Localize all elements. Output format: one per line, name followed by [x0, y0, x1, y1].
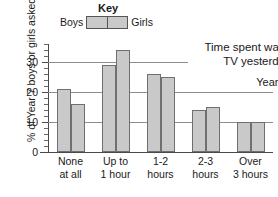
chart-title-line1: Time spent watching	[204, 41, 278, 53]
bar-girls-4	[251, 122, 265, 152]
x-axis-line	[40, 152, 273, 153]
bar-girls-0	[71, 104, 85, 152]
key-label-girls: Girls	[131, 16, 153, 29]
x-axis-label-line2: 3 hours	[224, 168, 277, 181]
y-tick-major-0	[42, 152, 48, 153]
key-swatch-group	[86, 16, 128, 29]
bar-chart: Key Boys Girls % of Year 7 boys or girls…	[0, 0, 278, 197]
bar-girls-1	[116, 50, 130, 152]
y-tick-label-0: 0	[18, 146, 38, 158]
x-axis-label-line1: Over	[239, 155, 262, 167]
x-axis-label-line1: None	[58, 155, 83, 167]
bar-girls-2	[161, 77, 175, 152]
bar-boys-4	[237, 122, 251, 152]
x-axis-label-4: Over3 hours	[224, 155, 277, 181]
bar-boys-0	[57, 89, 71, 152]
bar-boys-2	[147, 74, 161, 152]
key-label-boys: Boys	[60, 16, 83, 29]
chart-key: Key Boys Girls	[60, 2, 220, 34]
y-tick-label-30: 30	[18, 56, 38, 68]
x-axis-label-line1: 2-3	[198, 155, 213, 167]
x-axis-labels: Noneat allUp to1 hour1-2hours2-3hoursOve…	[48, 155, 273, 195]
y-axis-title: % of Year 7 boys or girls asked	[25, 0, 37, 155]
x-axis-label-line1: 1-2	[153, 155, 168, 167]
key-title: Key	[98, 2, 118, 14]
bar-boys-3	[192, 110, 206, 152]
plot-area: Time spent watching TV yesterday Year 7	[48, 44, 273, 152]
x-axis-label-line1: Up to	[103, 155, 128, 167]
key-row: Boys Girls	[60, 16, 153, 29]
bar-boys-1	[102, 65, 116, 152]
chart-title-line2: TV yesterday	[188, 54, 278, 68]
key-swatch-girls	[107, 17, 127, 28]
chart-title: Time spent watching TV yesterday	[188, 39, 278, 69]
y-tick-label-20: 20	[18, 86, 38, 98]
key-swatch-boys	[87, 17, 107, 28]
year-annotation: Year 7	[230, 75, 278, 89]
bar-girls-3	[206, 107, 220, 152]
y-tick-label-10: 10	[18, 116, 38, 128]
